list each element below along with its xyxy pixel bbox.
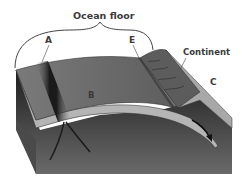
seafloor-spreading-diagram: [0, 0, 242, 188]
ocean-floor-title: Ocean floor: [73, 11, 134, 21]
label-a: A: [45, 36, 52, 45]
label-continent: Continent: [183, 48, 230, 57]
label-e-pointer: [133, 45, 139, 58]
label-e: E: [129, 36, 135, 45]
label-b: B: [88, 91, 94, 100]
label-a-pointer: [42, 45, 49, 62]
label-c: C: [210, 78, 217, 87]
